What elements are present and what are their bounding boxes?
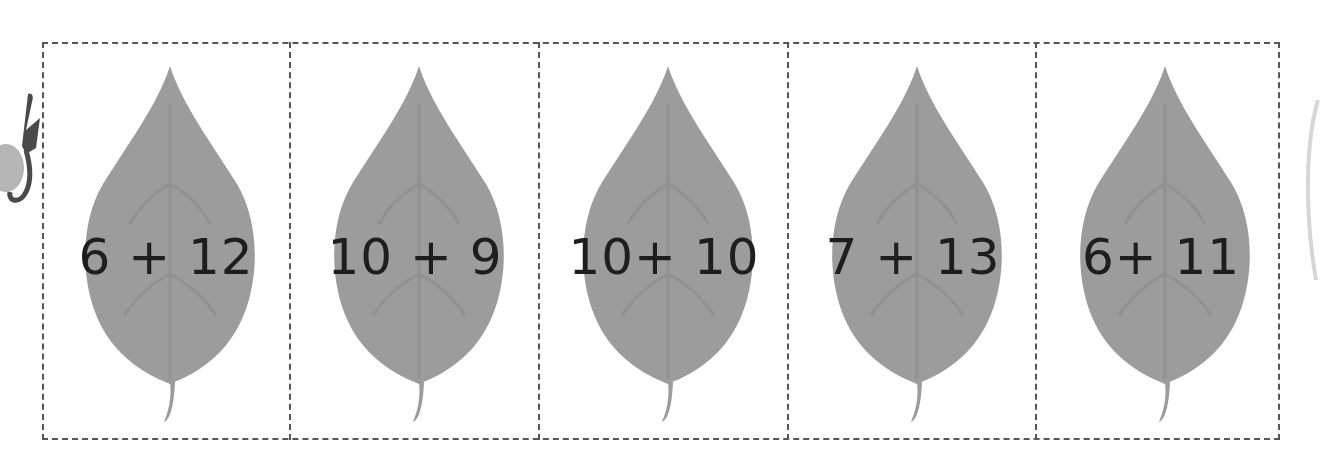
leaf-card: 6+ 11 bbox=[1037, 44, 1285, 438]
addition-expression: 6 + 12 bbox=[42, 227, 290, 287]
addition-expression: 7 + 13 bbox=[789, 227, 1037, 287]
leaf-card: 6 + 12 bbox=[42, 44, 290, 438]
addition-expression: 10+ 10 bbox=[540, 227, 788, 287]
leaf-card: 10 + 9 bbox=[291, 44, 539, 438]
partial-leaf-icon bbox=[1300, 100, 1324, 280]
addition-expression: 6+ 11 bbox=[1037, 227, 1285, 287]
leaf-card: 7 + 13 bbox=[789, 44, 1037, 438]
addition-expression: 10 + 9 bbox=[291, 227, 539, 287]
leaf-card: 10+ 10 bbox=[540, 44, 788, 438]
